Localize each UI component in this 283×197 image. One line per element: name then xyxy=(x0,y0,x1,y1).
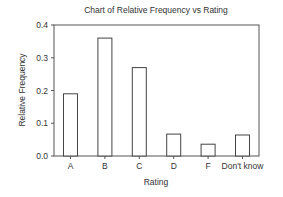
y-axis-label: Relative Frequency xyxy=(17,53,27,127)
y-tick-label: 0.0 xyxy=(36,151,48,161)
x-tick-label: D xyxy=(171,161,177,171)
bar-c xyxy=(132,68,146,156)
bar-d xyxy=(167,134,181,156)
plot-frame xyxy=(54,25,259,156)
x-axis: ABCDFDon't know xyxy=(68,156,265,171)
bar-f xyxy=(201,144,215,156)
y-tick-label: 0.3 xyxy=(36,53,48,63)
bar-a xyxy=(64,94,78,156)
x-tick-label: F xyxy=(205,161,210,171)
y-axis: 0.00.10.20.30.4 xyxy=(36,20,54,161)
x-tick-label: A xyxy=(68,161,74,171)
y-tick-label: 0.1 xyxy=(36,118,48,128)
bar-don-t-know xyxy=(236,135,250,156)
x-tick-label: B xyxy=(102,161,108,171)
x-tick-label: Don't know xyxy=(222,161,265,171)
bar-b xyxy=(98,38,112,156)
x-tick-label: C xyxy=(136,161,142,171)
y-tick-label: 0.4 xyxy=(36,20,48,30)
chart-title: Chart of Relative Frequency vs Rating xyxy=(84,5,228,15)
y-tick-label: 0.2 xyxy=(36,86,48,96)
bars-group xyxy=(64,38,250,156)
x-axis-label: Rating xyxy=(144,177,169,187)
chart: Chart of Relative Frequency vs Rating 0.… xyxy=(0,0,283,197)
